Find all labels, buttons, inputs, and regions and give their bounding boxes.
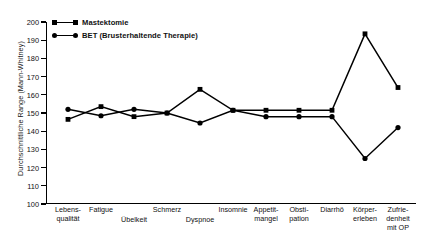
data-series-layer <box>46 22 416 204</box>
x-axis-label-line: Insomnie <box>218 206 247 215</box>
square-marker-icon <box>198 87 203 92</box>
square-marker-icon <box>264 108 269 113</box>
square-marker-icon <box>363 31 368 36</box>
chart-container: Durchschnittliche Range (Mann-Whitney) 2… <box>0 0 432 244</box>
circle-marker-icon <box>296 114 301 119</box>
x-axis-label-line: Diarrhö <box>320 206 344 215</box>
x-axis-label: Zufrie-denheitmit OP <box>386 206 410 232</box>
legend: Mastektomie BET (Brusterhaltende Therapi… <box>52 16 198 42</box>
x-axis-labels: Lebens-qualitätFatigueÜbelkeitSchmerzDys… <box>46 205 416 244</box>
x-axis-label: Diarrhö <box>320 206 344 215</box>
y-axis-tick-label: 160 <box>27 90 39 99</box>
series-line <box>68 34 398 120</box>
series-line <box>68 109 398 158</box>
circle-marker-icon <box>65 107 70 112</box>
circle-marker-icon <box>263 114 268 119</box>
x-axis-label-line: Übelkeit <box>121 216 147 225</box>
x-axis-label: Insomnie <box>218 206 247 215</box>
square-marker-icon <box>66 117 71 122</box>
x-axis-label: Lebens-qualität <box>55 206 81 224</box>
circle-marker-icon <box>52 31 78 41</box>
x-axis-label-line: Dyspnoe <box>186 216 214 225</box>
x-axis-label: Appetit-mangel <box>254 206 279 224</box>
y-axis-tick-label: 190 <box>27 36 39 45</box>
y-axis-tick-label: 100 <box>27 200 39 209</box>
circle-marker-icon <box>131 107 136 112</box>
legend-entry-mastektomie: Mastektomie <box>52 16 198 29</box>
circle-marker-icon <box>197 120 202 125</box>
x-axis-label-line: qualität <box>55 215 81 224</box>
x-axis-label: Fatigue <box>89 206 113 215</box>
circle-marker-icon <box>362 156 367 161</box>
circle-marker-icon <box>329 114 334 119</box>
x-axis-label-line: mit OP <box>386 224 410 233</box>
circle-marker-icon <box>164 110 169 115</box>
x-axis-label-line: pation <box>289 215 309 224</box>
x-axis-label: Dyspnoe <box>186 216 214 225</box>
y-axis-tick-label: 200 <box>27 18 39 27</box>
square-marker-icon <box>297 108 302 113</box>
y-axis-tick-label: 150 <box>27 109 39 118</box>
y-axis-tick-label: 180 <box>27 54 39 63</box>
square-marker-icon <box>330 108 335 113</box>
x-axis-label-line: mangel <box>254 215 279 224</box>
circle-marker-icon <box>395 125 400 130</box>
x-axis-label: Übelkeit <box>121 216 147 225</box>
y-axis-tick-label: 130 <box>27 145 39 154</box>
y-axis-tick-label: 110 <box>27 181 39 190</box>
square-marker-icon <box>99 104 104 109</box>
plot-area: 200190180170160150140130120110100 <box>46 22 416 204</box>
square-marker-icon <box>52 18 78 28</box>
x-axis-label-line: Schmerz <box>153 206 181 215</box>
legend-label: Mastektomie <box>82 18 129 27</box>
circle-marker-icon <box>98 113 103 118</box>
circle-marker-icon <box>230 108 235 113</box>
legend-entry-bet: BET (Brusterhaltende Therapie) <box>52 29 198 42</box>
x-axis-label-line: Fatigue <box>89 206 113 215</box>
x-axis-label: Obsti-pation <box>289 206 309 224</box>
y-axis-tick-label: 170 <box>27 72 39 81</box>
x-axis-label-line: erleben <box>353 215 377 224</box>
x-axis-label: Schmerz <box>153 206 181 215</box>
y-axis-tick-label: 140 <box>27 127 39 136</box>
x-axis-label: Körper-erleben <box>353 206 377 224</box>
legend-label: BET (Brusterhaltende Therapie) <box>82 31 198 40</box>
y-axis-title: Durchschnittliche Range (Mann-Whitney) <box>16 9 25 209</box>
square-marker-icon <box>396 85 401 90</box>
square-marker-icon <box>132 114 137 119</box>
y-axis-tick-label: 120 <box>27 163 39 172</box>
